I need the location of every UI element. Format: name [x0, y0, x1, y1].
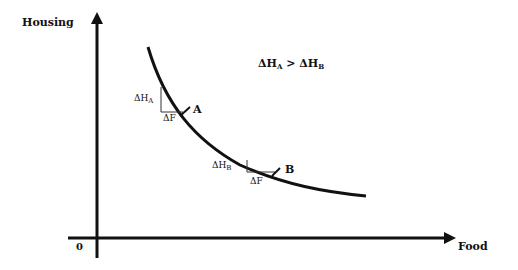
relation-label: ΔHA > ΔHB: [258, 57, 324, 71]
delta-f-b-label: ΔF: [250, 176, 263, 186]
point-a-label: A: [193, 103, 202, 116]
y-axis-arrow-icon: [91, 12, 103, 24]
x-axis-arrow-icon: [444, 232, 456, 244]
indifference-curve: [148, 47, 366, 196]
y-axis-label: Housing: [22, 16, 74, 29]
x-axis-label: Food: [458, 240, 488, 253]
point-b-label: B: [285, 163, 294, 176]
delta-h-a-label: ΔHA: [134, 93, 153, 105]
origin-label: 0: [76, 241, 83, 252]
delta-h-b-label: ΔHB: [212, 160, 232, 172]
delta-f-a-label: ΔF: [163, 113, 176, 123]
diagram-canvas: [0, 0, 518, 270]
